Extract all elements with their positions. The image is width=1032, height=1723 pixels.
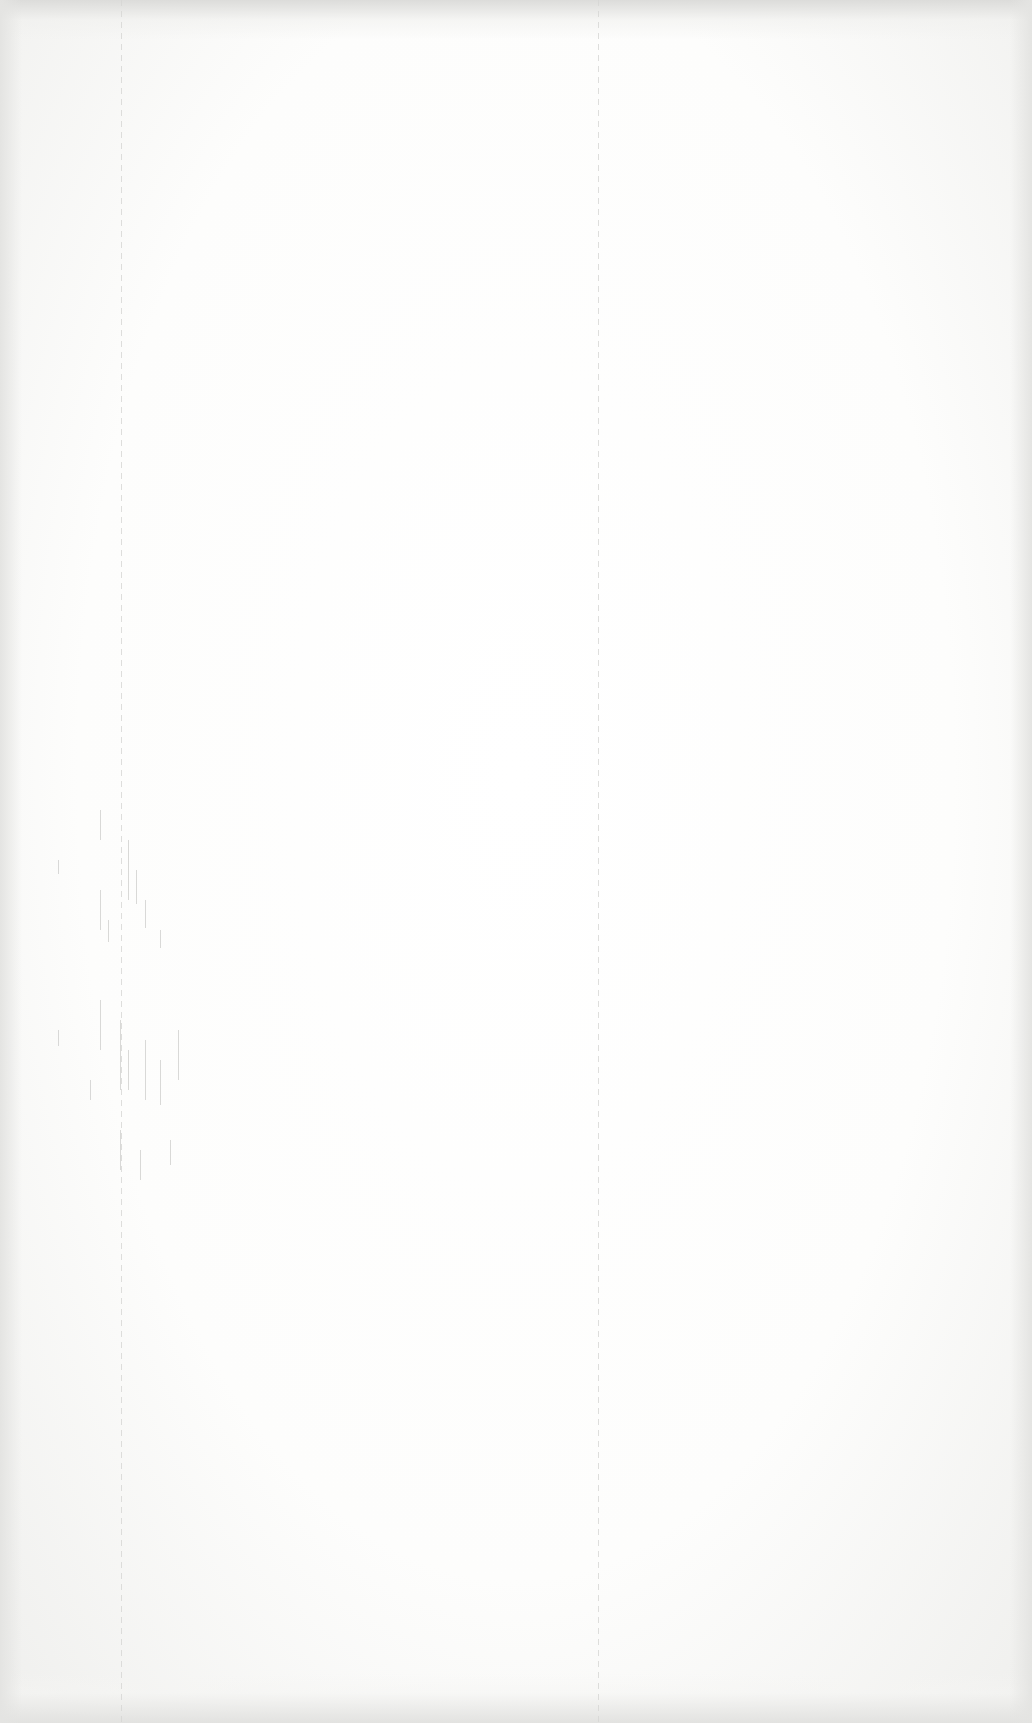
bleed-mark — [58, 860, 59, 874]
bleed-mark — [160, 930, 161, 948]
bleed-mark — [145, 900, 146, 928]
bleed-mark — [178, 1030, 179, 1080]
page-right-edge-shadow — [1010, 0, 1032, 1723]
bleed-mark — [120, 1130, 121, 1170]
page-top-edge-shadow — [0, 0, 1032, 40]
bleed-mark — [136, 870, 137, 904]
bleed-mark — [128, 840, 129, 900]
bleed-mark — [128, 1050, 129, 1090]
bleed-mark — [100, 890, 101, 930]
bleed-mark — [145, 1040, 146, 1100]
bleed-mark — [170, 1140, 171, 1165]
bleed-mark — [140, 1150, 141, 1180]
center-fold-divider — [598, 0, 599, 1723]
bleed-mark — [120, 1020, 121, 1090]
bleed-mark — [58, 1030, 59, 1046]
scanned-page — [0, 0, 1032, 1723]
page-bottom-edge-shadow — [0, 1673, 1032, 1723]
bleed-mark — [90, 1080, 91, 1100]
bleed-mark — [100, 1000, 101, 1050]
bleed-mark — [100, 810, 101, 840]
bleed-through-marks — [50, 800, 190, 1300]
bleed-mark — [160, 1060, 161, 1105]
page-left-edge-shadow — [0, 0, 22, 1723]
bleed-mark — [108, 920, 109, 942]
